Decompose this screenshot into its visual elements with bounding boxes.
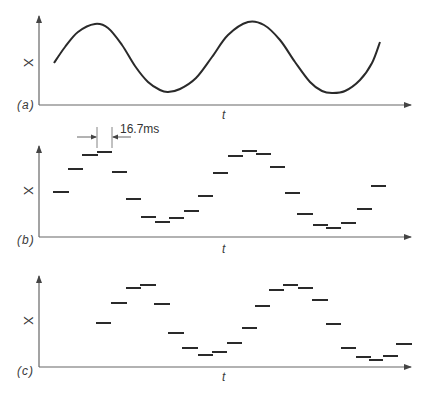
panel-c: [39, 276, 412, 367]
sampling-diagram: [0, 0, 431, 398]
panel-a: [39, 16, 411, 105]
sample-interval-label: 16.7ms: [120, 122, 159, 136]
panel-c-y-label: X: [21, 316, 36, 325]
panel-b-x-label: t: [222, 242, 225, 256]
panel-a-y-label: X: [21, 58, 36, 67]
panel-b-y-label: X: [21, 186, 36, 195]
sampled-segments-c: [96, 285, 412, 360]
panel-b-label: (b): [17, 233, 35, 247]
sampled-segments-b: [53, 151, 386, 228]
panel-a-label: (a): [17, 98, 35, 112]
panel-c-x-label: t: [222, 370, 225, 384]
continuous-signal-curve: [54, 21, 380, 93]
panel-c-label: (c): [17, 364, 34, 378]
panel-b: [39, 127, 411, 237]
panel-a-x-label: t: [222, 108, 225, 122]
